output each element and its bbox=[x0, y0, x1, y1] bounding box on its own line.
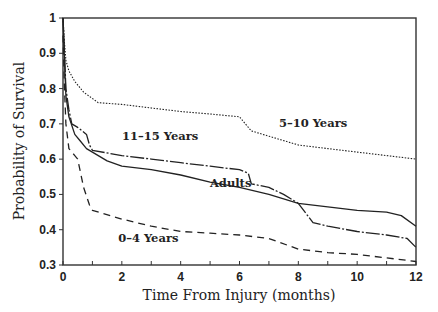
x-tick-label: 12 bbox=[409, 270, 423, 284]
series-layer bbox=[63, 18, 416, 262]
y-tick-label: 0.3 bbox=[39, 258, 56, 272]
y-tick-label: 0.8 bbox=[39, 82, 56, 96]
series-line-adults bbox=[63, 18, 416, 226]
survival-chart: 024681012 0.30.40.50.60.70.80.91 5–10 Ye… bbox=[0, 0, 438, 312]
y-axis-title: Probability of Survival bbox=[11, 61, 27, 220]
y-tick-label: 0.4 bbox=[39, 223, 56, 237]
series-label-11-15-years: 11–15 Years bbox=[122, 129, 198, 143]
plot-border bbox=[63, 18, 416, 265]
y-tick-label: 0.5 bbox=[39, 187, 56, 201]
plot-frame bbox=[63, 18, 416, 265]
series-label-5-10-years: 5–10 Years bbox=[279, 116, 347, 130]
y-tick-label: 0.9 bbox=[39, 46, 56, 60]
series-line-0-4-years bbox=[63, 36, 416, 262]
x-tick-label: 6 bbox=[236, 270, 243, 284]
series-label-adults: Adults bbox=[209, 176, 251, 190]
y-tick-label: 1 bbox=[49, 11, 56, 25]
series-line-5-10-years bbox=[63, 18, 416, 159]
x-tick-label: 10 bbox=[350, 270, 364, 284]
series-line-11-15-years bbox=[63, 18, 416, 247]
y-tick-label: 0.6 bbox=[39, 152, 56, 166]
x-tick-label: 2 bbox=[118, 270, 125, 284]
x-tick-label: 0 bbox=[60, 270, 67, 284]
x-axis-title: Time From Injury (months) bbox=[143, 287, 336, 303]
y-tick-label: 0.7 bbox=[39, 117, 56, 131]
y-axis: 0.30.40.50.60.70.80.91 bbox=[39, 11, 63, 272]
x-tick-label: 4 bbox=[177, 270, 184, 284]
series-label-0-4-years: 0–4 Years bbox=[118, 231, 178, 245]
x-tick-label: 8 bbox=[295, 270, 302, 284]
